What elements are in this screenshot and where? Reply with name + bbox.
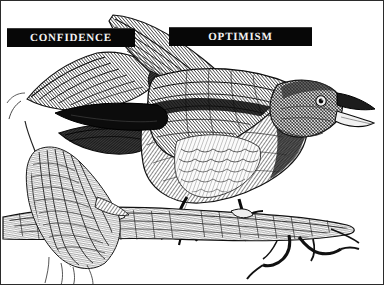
banner-optimism: OPTIMISM — [169, 27, 312, 46]
banner-confidence: CONFIDENCE — [7, 28, 135, 47]
bird-eye — [316, 96, 326, 106]
banner-confidence-label: CONFIDENCE — [30, 32, 112, 44]
banner-optimism-label: OPTIMISM — [208, 31, 272, 43]
engraving-poster: CONFIDENCE OPTIMISM — [0, 0, 384, 285]
